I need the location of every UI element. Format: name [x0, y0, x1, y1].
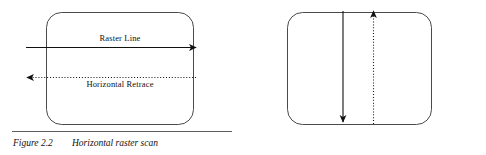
- figure-number: Figure 2.2: [13, 138, 53, 148]
- figure-page: Raster Line Horizontal Retrace Figure 2.…: [0, 0, 486, 155]
- figure-2-3-block: Downward Sweep Vertical Retrace Figure 2…: [243, 0, 486, 155]
- horizontal-raster-diagram: [0, 0, 243, 130]
- crt-screen-outline: [288, 13, 432, 125]
- figure-2-2-block: Raster Line Horizontal Retrace Figure 2.…: [0, 0, 243, 155]
- caption-rule: [12, 131, 232, 132]
- vertical-raster-svg: [243, 0, 486, 130]
- crt-screen-outline: [47, 13, 194, 125]
- horizontal-raster-svg: [0, 0, 243, 130]
- vertical-raster-diagram: [243, 0, 486, 130]
- raster-line-label: Raster Line: [46, 33, 194, 44]
- horizontal-retrace-label: Horizontal Retrace: [46, 79, 194, 90]
- figure-caption-text: Horizontal raster scan: [72, 138, 158, 148]
